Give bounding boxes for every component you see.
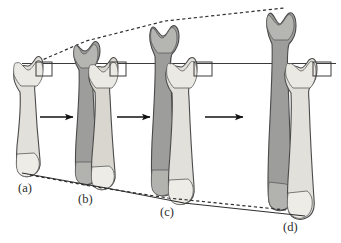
stage-label-d: (d) <box>283 220 298 234</box>
stage-d-group <box>267 13 331 220</box>
stage-label-b: (b) <box>78 192 93 206</box>
stage-label-c: (c) <box>160 205 174 219</box>
stage-label-a: (a) <box>18 181 32 195</box>
figure-canvas: (a) (b) (c) (d) <box>0 0 341 243</box>
reference-bone-a <box>14 56 43 176</box>
bone-growth-figure: (a) (b) (c) (d) <box>0 0 341 243</box>
stage-c-group <box>150 26 212 205</box>
